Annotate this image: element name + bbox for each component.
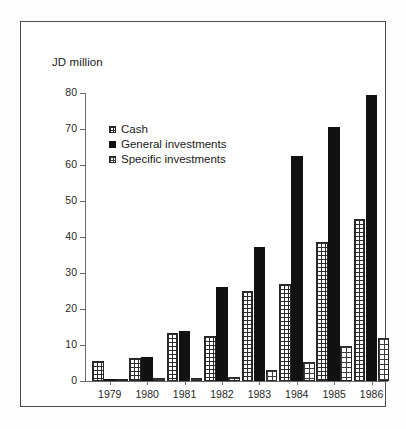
x-axis-tick	[259, 381, 260, 385]
bar-specific-investments	[266, 370, 278, 381]
y-axis-tick: 80	[80, 93, 85, 94]
x-axis-tick	[110, 381, 111, 385]
bar-general-investments	[141, 357, 153, 381]
y-axis-tick-label: 0	[71, 374, 77, 386]
x-axis-tick	[334, 381, 335, 385]
bar-general-investments	[254, 247, 266, 381]
bar-cash	[129, 358, 141, 381]
x-axis-tick-label: 1983	[248, 388, 271, 400]
y-axis-tick-label: 50	[65, 194, 77, 206]
bar-specific-investments	[153, 378, 165, 381]
bar-cash	[279, 284, 291, 381]
x-axis-tick-label: 1986	[360, 388, 383, 400]
y-axis-tick: 70	[80, 129, 85, 130]
y-axis-tick: 30	[80, 273, 85, 274]
bar-specific-investments	[303, 362, 315, 381]
y-axis-tick-label: 70	[65, 122, 77, 134]
y-axis-tick: 40	[80, 237, 85, 238]
x-axis-tick-label: 1979	[98, 388, 121, 400]
x-axis-tick	[372, 381, 373, 385]
bar-cash	[242, 291, 254, 381]
bar-cash	[204, 336, 216, 381]
y-axis-tick: 50	[80, 201, 85, 202]
y-axis-tick: 60	[80, 165, 85, 166]
bar-specific-investments	[116, 379, 128, 381]
bar-general-investments	[216, 287, 228, 381]
y-axis-tick-label: 20	[65, 302, 77, 314]
bar-cash	[316, 242, 328, 381]
x-axis-tick-label: 1982	[210, 388, 233, 400]
bar-cash	[92, 361, 104, 381]
chart-frame: JD million Cash General investments Spec…	[20, 21, 386, 407]
x-axis-tick	[222, 381, 223, 385]
x-axis-tick	[297, 381, 298, 385]
y-axis-tick-label: 80	[65, 86, 77, 98]
bar-general-investments	[291, 156, 303, 381]
y-axis-tick-label: 60	[65, 158, 77, 170]
x-axis-tick-label: 1981	[173, 388, 196, 400]
bar-cash	[354, 219, 366, 381]
y-axis-line	[85, 93, 86, 381]
x-axis-tick-label: 1984	[285, 388, 308, 400]
x-axis-tick-label: 1985	[322, 388, 345, 400]
bar-specific-investments	[340, 346, 352, 381]
y-axis-tick-label: 30	[65, 266, 77, 278]
y-axis-tick-label: 10	[65, 338, 77, 350]
y-axis-tick-label: 40	[65, 230, 77, 242]
x-axis-tick	[147, 381, 148, 385]
y-axis-tick: 20	[80, 309, 85, 310]
bar-general-investments	[328, 127, 340, 381]
y-axis-tick: 0	[80, 381, 85, 382]
axis-title: JD million	[52, 56, 103, 68]
bar-general-investments	[366, 95, 378, 381]
bar-specific-investments	[228, 377, 240, 381]
x-axis-line	[85, 381, 388, 382]
bar-specific-investments	[191, 378, 203, 381]
x-axis-tick-label: 1980	[135, 388, 158, 400]
chart-figure: JD million Cash General investments Spec…	[0, 0, 406, 429]
bar-cash	[167, 333, 179, 381]
y-axis-tick: 10	[80, 345, 85, 346]
plot-area: 01020304050607080 1979198019811982198319…	[85, 93, 395, 381]
bar-specific-investments	[378, 338, 390, 381]
x-axis-tick	[185, 381, 186, 385]
bar-general-investments	[179, 331, 191, 381]
